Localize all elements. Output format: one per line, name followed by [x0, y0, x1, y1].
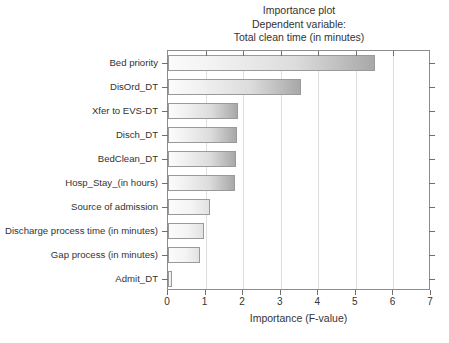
y-axis-tick-right: [429, 279, 435, 280]
bar-row: [168, 123, 429, 147]
y-axis-label: Disch_DT: [5, 129, 167, 140]
bar-row: [168, 219, 429, 243]
bar-disch-dt: [168, 127, 237, 143]
bar-row: [168, 75, 429, 99]
x-axis-tick: [205, 290, 206, 295]
bar-xfer-to-evs-dt: [168, 103, 238, 119]
bar-bedclean-dt: [168, 151, 236, 167]
x-axis-tick: [430, 290, 431, 295]
x-axis-tick-top: [393, 51, 394, 56]
x-axis-tick: [167, 290, 168, 295]
importance-plot-figure: Importance plot Dependent variable: Tota…: [0, 0, 449, 343]
y-axis-label: Hosp_Stay_(in hours): [5, 177, 167, 188]
y-axis-tick-right: [429, 207, 435, 208]
bar-bed-priority: [168, 55, 375, 71]
x-axis-title: Importance (F-value): [167, 312, 430, 324]
bar-disord-dt: [168, 79, 301, 95]
y-axis-tick-right: [429, 135, 435, 136]
bar-row: [168, 243, 429, 267]
x-axis-tick-top: [356, 51, 357, 56]
x-axis-tick-label: 6: [390, 296, 396, 307]
y-axis-tick-right: [429, 183, 435, 184]
y-axis-tick-right: [429, 63, 435, 64]
bar-discharge-process-time-in-minutes: [168, 223, 204, 239]
x-axis-tick-top: [281, 51, 282, 56]
bar-row: [168, 195, 429, 219]
y-axis-label: Discharge process time (in minutes): [5, 225, 167, 236]
x-axis-tick-label: 0: [164, 296, 170, 307]
x-axis-tick-label: 3: [277, 296, 283, 307]
bar-admit-dt: [168, 271, 172, 287]
y-axis-label: Bed priority: [5, 57, 167, 68]
bar-row: [168, 147, 429, 171]
x-axis-tick-label: 1: [202, 296, 208, 307]
x-axis-tick-top: [243, 51, 244, 56]
x-axis-tick-label: 2: [239, 296, 245, 307]
y-axis-label: Admit_DT: [5, 273, 167, 284]
y-axis-label: DisOrd_DT: [5, 81, 167, 92]
chart-subtitle-dependent-variable: Total clean time (in minutes): [167, 31, 431, 45]
y-axis-tick-right: [429, 159, 435, 160]
y-axis-label: Xfer to EVS-DT: [5, 105, 167, 116]
x-axis-tick-top: [318, 51, 319, 56]
y-axis-tick-right: [429, 231, 435, 232]
x-axis-tick-label: 4: [315, 296, 321, 307]
chart-title: Importance plot: [167, 4, 431, 18]
chart-title-block: Importance plot Dependent variable: Tota…: [167, 4, 431, 45]
y-axis-tick-right: [429, 87, 435, 88]
y-axis-label: Gap process (in minutes): [5, 249, 167, 260]
bar-row: [168, 99, 429, 123]
bar-source-of-admission: [168, 199, 210, 215]
bar-row: [168, 171, 429, 195]
plot-area: [167, 50, 430, 290]
y-axis-label: Source of admission: [5, 201, 167, 212]
x-axis-tick: [317, 290, 318, 295]
bar-row: [168, 51, 429, 75]
y-axis-label: BedClean_DT: [5, 153, 167, 164]
x-axis-tick: [355, 290, 356, 295]
y-axis-category-labels: Bed priorityDisOrd_DTXfer to EVS-DTDisch…: [0, 50, 167, 290]
bar-gap-process-in-minutes: [168, 247, 200, 263]
x-axis-tick-label: 7: [427, 296, 433, 307]
bar-hosp-stay-in-hours: [168, 175, 235, 191]
y-axis-tick-right: [429, 255, 435, 256]
x-axis-tick: [392, 290, 393, 295]
bar-row: [168, 267, 429, 291]
x-axis-tick: [280, 290, 281, 295]
x-axis-tick-label: 5: [352, 296, 358, 307]
x-axis-tick: [242, 290, 243, 295]
y-axis-tick-right: [429, 111, 435, 112]
x-axis-tick-top: [206, 51, 207, 56]
chart-subtitle: Dependent variable:: [167, 18, 431, 32]
